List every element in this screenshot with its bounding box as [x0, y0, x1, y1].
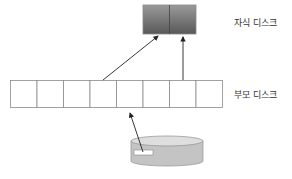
base-image-cylinder: [131, 136, 203, 166]
base-image-block: [134, 150, 153, 155]
child-disk: [143, 5, 196, 34]
arrow-parent-to-child-1: [103, 36, 158, 80]
parent-disk-label: 부모 디스크: [234, 88, 277, 101]
parent-disk: [11, 81, 223, 108]
child-disk-label: 자식 디스크: [234, 16, 277, 29]
